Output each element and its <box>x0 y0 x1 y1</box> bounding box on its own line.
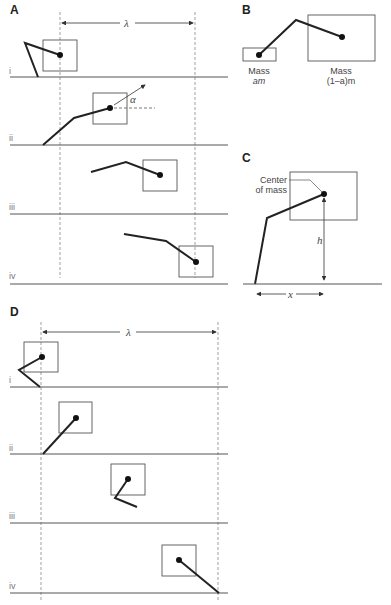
center-of-mass-dot <box>39 354 45 360</box>
panel-b: B Mass am Mass (1–a)m <box>242 3 375 86</box>
center-of-mass-dot <box>125 476 131 482</box>
leg <box>259 20 342 55</box>
height-label: h <box>317 234 323 246</box>
leg <box>43 418 76 454</box>
lambda-label: λ <box>125 326 131 338</box>
row-label-iv: iv <box>9 581 16 591</box>
panel-b-letter: B <box>242 3 251 17</box>
leg <box>179 560 219 593</box>
panel-d: D λ i ii iii iv <box>9 305 228 600</box>
row-label-ii: ii <box>9 443 13 453</box>
alpha-label: α <box>130 93 136 105</box>
leg <box>255 194 324 284</box>
leg <box>115 479 137 507</box>
panel-a: A λ i ii α iii iv <box>9 3 228 284</box>
row-label-iii: iii <box>9 202 15 212</box>
center-of-mass-dot <box>107 105 113 111</box>
center-of-mass-dot <box>73 415 79 421</box>
leg <box>91 162 160 175</box>
small-mass-label: Mass <box>248 66 270 76</box>
small-mass-formula: am <box>253 76 266 86</box>
row-label-iv: iv <box>9 271 16 281</box>
leg <box>124 234 196 262</box>
x-label: x <box>287 288 293 300</box>
center-of-mass-dot <box>193 259 199 265</box>
large-mass-formula: (1–a)m <box>327 76 356 86</box>
center-of-mass-dot <box>57 52 63 58</box>
row-label-i: i <box>9 375 11 385</box>
small-mass-dot <box>256 52 262 58</box>
panel-c: C Center of mass h x <box>242 151 382 300</box>
row-label-ii: ii <box>9 133 13 143</box>
center-of-mass-dot <box>176 557 182 563</box>
center-of-mass-label: Center <box>260 175 287 185</box>
center-of-mass-label-2: of mass <box>255 185 287 195</box>
lambda-label: λ <box>123 17 129 29</box>
leg <box>43 108 110 145</box>
large-mass-label: Mass <box>330 66 352 76</box>
large-mass-dot <box>339 34 345 40</box>
panel-c-letter: C <box>242 151 251 165</box>
row-label-iii: iii <box>9 511 15 521</box>
panel-d-letter: D <box>10 305 19 319</box>
locomotion-diagram: A λ i ii α iii iv <box>0 0 391 605</box>
center-of-mass-dot <box>157 172 163 178</box>
callout-leader <box>289 180 322 192</box>
row-label-i: i <box>9 66 11 76</box>
panel-a-letter: A <box>10 3 19 17</box>
leg <box>25 43 60 77</box>
